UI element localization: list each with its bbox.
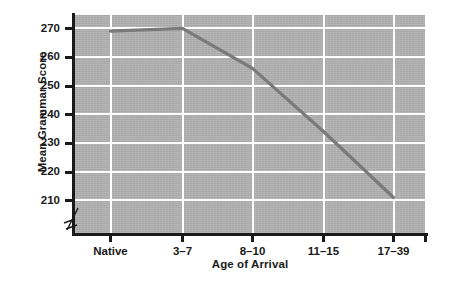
gridline-x-native [110,15,112,233]
y-tick-mark-270 [65,27,73,30]
gridline-x-17-39 [393,15,395,233]
grammar-score-line-chart: Mean Grammar Score 270 260 250 240 230 2… [0,0,460,283]
gridline-y-220 [75,171,425,173]
x-tick-mark-end [424,235,427,242]
x-axis-title: Age of Arrival [75,258,425,270]
x-tick-label-17-39: 17–39 [354,245,434,257]
gridline-y-250 [75,85,425,87]
x-tick-label-3-7: 3–7 [143,245,223,257]
y-tick-label-220: 220 [18,165,60,177]
x-tick-mark-17-39 [392,235,395,242]
y-tick-label-210: 210 [18,194,60,206]
x-tick-mark-3-7 [181,235,184,242]
y-tick-mark-240 [65,113,73,116]
y-tick-mark-210 [65,199,73,202]
x-tick-mark-native [109,235,112,242]
gridline-x-8-10 [252,15,254,233]
y-tick-mark-230 [65,142,73,145]
x-tick-label-11-15: 11–15 [284,245,364,257]
y-tick-label-270: 270 [18,22,60,34]
y-tick-mark-250 [65,85,73,88]
x-tick-mark-11-15 [322,235,325,242]
gridline-x-11-15 [323,15,325,233]
y-tick-label-240: 240 [18,108,60,120]
x-tick-label-8-10: 8–10 [213,245,293,257]
gridline-x-3-7 [182,15,184,233]
y-tick-mark-260 [65,56,73,59]
y-tick-mark-220 [65,171,73,174]
x-tick-label-native: Native [71,245,151,257]
x-axis-line [72,233,428,236]
gridline-y-210 [75,199,425,201]
gridline-y-260 [75,56,425,58]
plot-area [75,15,425,233]
gridline-y-240 [75,113,425,115]
x-tick-mark-8-10 [251,235,254,242]
gridline-y-230 [75,142,425,144]
gridline-y-270 [75,27,425,29]
y-tick-label-230: 230 [18,136,60,148]
y-tick-label-260: 260 [18,50,60,62]
axis-break-icon [63,206,83,232]
y-tick-label-250: 250 [18,79,60,91]
